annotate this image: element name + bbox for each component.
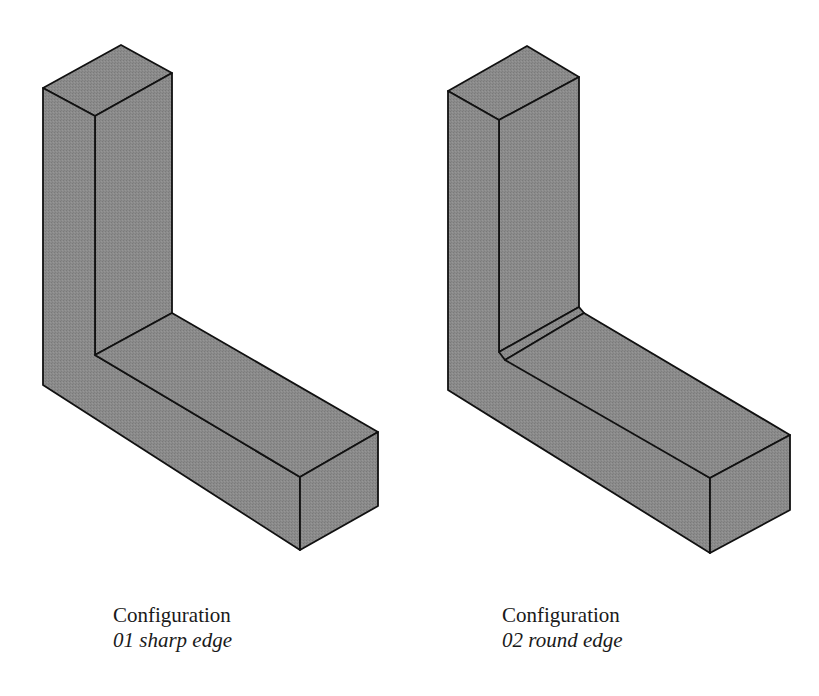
l-shape-sharp-edge — [43, 45, 378, 550]
column-front-face — [499, 77, 579, 352]
caption-title: Configuration — [113, 603, 232, 628]
caption-subtitle: 01 sharp edge — [113, 628, 232, 653]
caption-config-01: Configuration 01 sharp edge — [113, 603, 232, 653]
l-shapes-drawing — [0, 0, 819, 696]
caption-title: Configuration — [502, 603, 623, 628]
caption-config-02: Configuration 02 round edge — [502, 603, 623, 653]
figure: Configuration 01 sharp edge Configuratio… — [0, 0, 819, 696]
column-front-face — [95, 73, 172, 355]
caption-subtitle: 02 round edge — [502, 628, 623, 653]
l-shape-round-edge — [448, 46, 790, 553]
